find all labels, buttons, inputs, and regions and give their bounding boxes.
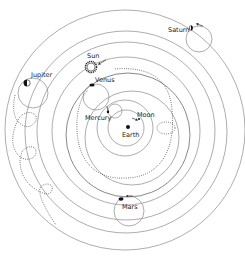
- earth-label: Earth: [122, 131, 139, 139]
- venus-epicycle: [83, 84, 109, 110]
- epicycles: [18, 26, 212, 226]
- motion-arrows: [99, 24, 203, 196]
- mercury-label: Mercury: [85, 114, 112, 122]
- sun-icon: [86, 62, 97, 73]
- jupiter-dotted-path: [13, 95, 56, 225]
- apparent-paths: [13, 69, 175, 225]
- deferent-orbits: [5, 10, 245, 250]
- mars-epicycle: [114, 196, 144, 226]
- jupiter-icon: [24, 80, 30, 86]
- saturn-deferent: [5, 10, 245, 250]
- dotted-loop-right: [157, 122, 175, 134]
- earth-icon: [126, 125, 130, 129]
- venus-label: Venus: [95, 76, 115, 84]
- saturn-label: Saturn: [168, 26, 189, 34]
- mars-label: Mars: [122, 203, 138, 211]
- venus-icon: [89, 83, 94, 86]
- moon-label: Moon: [137, 111, 155, 119]
- jupiter-label: Jupiter: [30, 71, 53, 79]
- mercury-icon: [107, 111, 109, 113]
- mars-icon: [119, 197, 124, 201]
- geocentric-diagram: Earth Moon Mercury Venus Sun Mars Jupite…: [0, 0, 245, 257]
- sun-label: Sun: [87, 52, 99, 60]
- mercury-deferent: [97, 100, 153, 156]
- saturn-icon: [189, 26, 192, 31]
